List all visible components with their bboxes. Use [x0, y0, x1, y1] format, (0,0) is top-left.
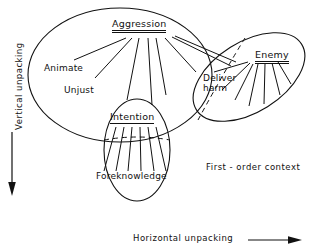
intention-ray-5 — [148, 127, 154, 171]
leaf-label-deliver-harm: Deliver harm — [203, 73, 236, 93]
diagram-vector-layer — [0, 0, 309, 251]
enemy-text: Enemy — [255, 49, 289, 62]
intention-ray-2 — [116, 127, 124, 171]
enemy-ray-6 — [272, 63, 280, 95]
leaf-label-animate: Animate — [44, 64, 83, 73]
aggression-ray-1 — [74, 38, 126, 60]
diagram-canvas: Aggression Animate Unjust Intention Fore… — [0, 0, 309, 251]
axis-label-vertical-unpacking: Vertical unpacking — [15, 42, 24, 130]
intention-dashed-boundary — [104, 137, 170, 140]
node-label-enemy: Enemy — [255, 50, 289, 60]
intention-text: Intention — [110, 111, 154, 124]
enemy-ray-5 — [264, 64, 265, 104]
intention-ray-3 — [128, 127, 132, 171]
annotation-first-order-context: First - order context — [206, 163, 300, 172]
aggression-text: Aggression — [112, 18, 166, 31]
aggression-ray-3 — [127, 38, 139, 100]
node-label-intention: Intention — [110, 112, 154, 122]
intention-ray-4 — [140, 127, 141, 171]
leaf-label-unjust: Unjust — [64, 86, 94, 95]
deliver-harm-line-1: Deliver — [203, 73, 236, 83]
leaf-label-foreknowledge: Foreknowledge — [96, 172, 167, 181]
node-label-aggression: Aggression — [112, 19, 166, 29]
axis-label-horizontal-unpacking: Horizontal unpacking — [133, 234, 233, 243]
intention-ray-fan — [104, 127, 166, 171]
aggression-ray-7 — [172, 37, 231, 66]
aggression-ray-2 — [95, 38, 132, 78]
vertical-axis-arrow — [8, 132, 16, 196]
aggression-ray-5 — [156, 38, 166, 95]
enemy-context-ellipse — [178, 14, 309, 139]
deliver-harm-line-2: harm — [203, 83, 236, 93]
enemy-ray-7 — [278, 62, 291, 84]
aggression-ray-4 — [148, 38, 152, 105]
horizontal-axis-arrow — [248, 236, 302, 244]
